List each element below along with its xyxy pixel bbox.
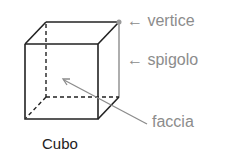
cube-caption: Cubo — [42, 136, 78, 151]
edge-label: ← spigolo — [127, 52, 198, 68]
face-label: faccia — [152, 114, 194, 130]
cube-diagram: ← vertice ← spigolo faccia Cubo — [0, 0, 229, 163]
vertex-label: ← vertice — [127, 13, 195, 29]
